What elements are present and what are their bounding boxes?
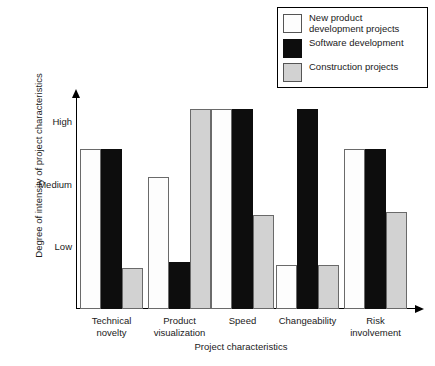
x-axis-title: Project characteristics bbox=[76, 341, 406, 352]
white-swatch-icon bbox=[283, 14, 302, 33]
bar-software-development bbox=[365, 149, 386, 309]
legend-item-label: Construction projects bbox=[309, 62, 398, 73]
bar-software-development bbox=[232, 109, 253, 309]
bar-construction bbox=[122, 268, 143, 309]
black-swatch-icon bbox=[283, 39, 302, 58]
legend-item: Construction projects bbox=[283, 62, 423, 82]
bar-construction bbox=[318, 265, 339, 309]
bar-construction bbox=[386, 212, 407, 309]
y-tick-label-high: High bbox=[52, 116, 72, 127]
y-tick-label-low: Low bbox=[55, 241, 72, 252]
bar-software-development bbox=[169, 262, 190, 309]
bar-new-product bbox=[211, 109, 232, 309]
legend-item: New product development projects bbox=[283, 13, 423, 34]
bar-software-development bbox=[297, 109, 318, 309]
chart-legend: New product development projects Softwar… bbox=[277, 7, 428, 88]
bar-new-product bbox=[276, 265, 297, 309]
bar-new-product bbox=[148, 177, 169, 309]
plot-area bbox=[76, 96, 421, 309]
legend-item: Software development bbox=[283, 38, 423, 58]
gray-swatch-icon bbox=[283, 63, 302, 82]
chart-figure: New product development projects Softwar… bbox=[0, 0, 435, 366]
bar-new-product bbox=[80, 149, 101, 309]
bar-new-product bbox=[344, 149, 365, 309]
legend-item-label: New product development projects bbox=[309, 13, 399, 34]
x-tick-label: Risk involvement bbox=[331, 315, 421, 338]
bar-software-development bbox=[101, 149, 122, 309]
y-axis-title: Degree of intensity of project character… bbox=[33, 56, 44, 276]
legend-item-label: Software development bbox=[309, 38, 404, 49]
bar-construction bbox=[253, 215, 274, 309]
bar-construction bbox=[190, 109, 211, 309]
